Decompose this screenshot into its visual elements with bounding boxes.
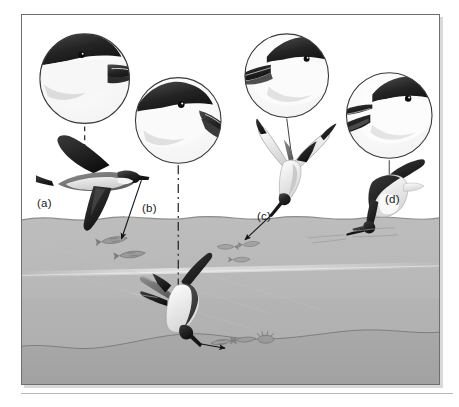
head-detail-circle-d — [327, 73, 438, 159]
panel-label-c: (c) — [257, 210, 271, 222]
petrel-in-flight — [36, 135, 149, 230]
head-detail-circle-a — [30, 33, 144, 124]
head-detail-circle-c — [231, 34, 338, 118]
panel-label-b: (b) — [142, 202, 157, 214]
head-detail-circle-b — [134, 78, 237, 164]
figure-root: (a) (b) (c) (d) — [0, 0, 459, 407]
tern-plunge-diving — [256, 118, 336, 216]
panel-label-a: (a) — [37, 197, 52, 209]
bottom-rule — [21, 393, 453, 394]
panel-label-d: (d) — [385, 193, 400, 205]
illustration-plate: (a) (b) (c) (d) — [21, 14, 440, 385]
illustration-canvas — [22, 15, 439, 384]
